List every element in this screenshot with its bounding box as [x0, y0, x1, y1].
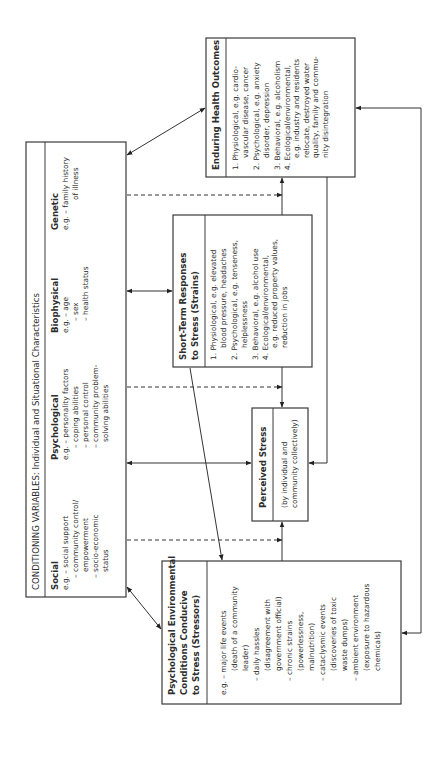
- diagram-text-line: – ambient environment: [351, 595, 360, 681]
- diagram-text-line: of illness: [71, 167, 80, 200]
- diagram-text-line: vascular disease, cancer: [241, 66, 250, 158]
- conditioning-title: CONDITIONING VARIABLES: Individual and S…: [31, 293, 41, 590]
- diagram-text-line: 3. Behavioral, e.g. alcoholism: [273, 61, 282, 170]
- diagram-text-line: 4. Ecological/environmental,: [283, 65, 292, 170]
- diagram-text-line: community collectively): [290, 419, 299, 508]
- diagram-text-line: (disagreement with: [263, 599, 272, 671]
- diagram-text-line: – socio-economic: [91, 514, 100, 578]
- stressors-title-line1: Psychological Environmental: [167, 556, 177, 695]
- connectors: [127, 108, 421, 633]
- stressors-title-line3: to Stress (Stressors): [191, 595, 201, 695]
- enduring-title: Enduring Health Outcomes: [211, 40, 221, 170]
- diagram-text-line: 2. Psychological, e.g. anxiety: [252, 62, 261, 170]
- diagram-text-line: e.g. – major life events: [219, 610, 228, 695]
- genetic-heading: Genetic: [50, 193, 60, 230]
- diagram-text-line: (death of a community: [230, 586, 239, 671]
- arrow-shortterm-stressors: [190, 368, 222, 560]
- diagram-text-line: nity disintegration: [321, 90, 330, 158]
- diagram-text-line: government official): [274, 596, 283, 671]
- arrow-conditioning-enduring: [127, 108, 205, 155]
- diagram-text-line: blood pressure, headaches: [219, 248, 228, 348]
- diagram-text-line: 1. Physiological, e.g. elevated: [209, 249, 218, 360]
- diagram-text-line: leader): [241, 645, 250, 671]
- social-heading: Social: [50, 561, 60, 590]
- diagram-text-line: e.g. – personality factors: [61, 368, 70, 460]
- diagram-text-line: – chronic strains: [285, 621, 294, 681]
- diagram-text-line: e.g. industry and residents: [292, 59, 301, 158]
- feedback-loop-right: [356, 108, 421, 633]
- short-term-title-line2: to Stress (Strains): [190, 271, 200, 360]
- diagram-text-line: solving abilities: [101, 385, 110, 442]
- diagram-text-line: (powerlessness,: [296, 612, 305, 671]
- diagram-text-line: 4. Ecological/environmental,: [261, 255, 270, 360]
- diagram-text-line: e.g. reduced property values,: [270, 239, 279, 348]
- diagram-text-line: e.g. – family history: [61, 156, 70, 230]
- diagram-text-line: disorder, depression: [262, 82, 271, 158]
- stressors-title-line2: Conditions Conducive: [179, 590, 189, 695]
- diagram-text-line: relocate, destroyed water: [302, 62, 311, 158]
- short-term-title-line1: Short-Term Responses: [178, 253, 188, 360]
- diagram-text-line: malnutrition): [307, 623, 316, 671]
- diagram-text-line: – cataclysmic events: [318, 604, 327, 681]
- perceived-stress-title: Perceived Stress: [258, 427, 268, 508]
- diagram-text-line: reduction in jobs: [280, 286, 289, 348]
- diagram-text-line: quality, family and commu-: [311, 56, 320, 158]
- arrow-conditioning-stressors: [127, 587, 161, 629]
- diagram-text-line: empowerment: [81, 518, 90, 572]
- diagram-text-line: 1. Physiological, e.g. cardio-: [231, 66, 240, 170]
- diagram-text-line: (by individual and: [280, 441, 289, 508]
- diagram-text-line: – community problem-: [91, 364, 100, 448]
- diagram-text-line: – community control/: [71, 499, 80, 578]
- stress-model-diagram: CONDITIONING VARIABLES: Individual and S…: [0, 0, 442, 761]
- diagram-text-line: e.g. – social support: [61, 516, 70, 590]
- diagram-text-line: – health status: [81, 266, 90, 321]
- diagram-text-line: – sex: [71, 302, 80, 321]
- diagram-text-line: 3. Behavioral, e.g. alcohol use: [251, 248, 260, 360]
- diagram-text-line: – personal control: [81, 382, 90, 448]
- diagram-text-line: (discoveries of toxic: [329, 597, 338, 671]
- psychological-heading: Psychological: [50, 394, 60, 460]
- diagram-text-line: status: [101, 549, 110, 572]
- diagram-text-line: 2. Psychological, e.g. tenseness,: [230, 240, 239, 360]
- diagram-text-line: helplessness: [240, 301, 249, 348]
- diagram-text-line: – daily hassles: [252, 627, 261, 681]
- diagram-text-line: waste dumps): [340, 619, 349, 671]
- diagram-text-line: – coping abilities: [71, 386, 80, 448]
- biophysical-heading: Biophysical: [50, 278, 60, 333]
- diagram-text-line: e.g. – age: [61, 296, 70, 333]
- diagram-text-line: chemicals): [373, 631, 382, 671]
- diagram-text-line: (exposure to hazardous: [362, 584, 371, 671]
